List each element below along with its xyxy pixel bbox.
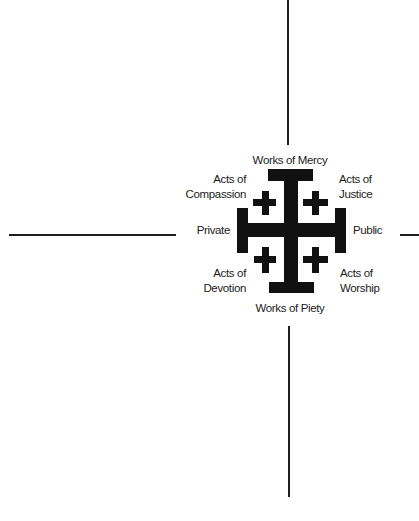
- public-text: Public: [353, 224, 382, 236]
- label-works-of-mercy: Works of Mercy: [240, 153, 340, 168]
- acts-of-worship-line1: Acts of: [340, 266, 400, 281]
- private-text: Private: [197, 224, 230, 236]
- works-of-piety-text: Works of Piety: [255, 302, 324, 314]
- jerusalem-cross-icon: [0, 0, 419, 521]
- label-acts-of-compassion: Acts of Compassion: [170, 172, 246, 202]
- acts-of-justice-line1: Acts of: [339, 172, 399, 187]
- acts-of-devotion-line1: Acts of: [180, 266, 246, 281]
- label-acts-of-justice: Acts of Justice: [339, 172, 399, 202]
- acts-of-justice-line2: Justice: [339, 187, 399, 202]
- label-acts-of-worship: Acts of Worship: [340, 266, 400, 296]
- label-public: Public: [353, 223, 403, 238]
- label-acts-of-devotion: Acts of Devotion: [180, 266, 246, 296]
- label-works-of-piety: Works of Piety: [240, 301, 340, 316]
- acts-of-worship-line2: Worship: [340, 281, 400, 296]
- works-of-mercy-text: Works of Mercy: [253, 154, 328, 166]
- label-private: Private: [180, 223, 230, 238]
- acts-of-compassion-line2: Compassion: [170, 187, 246, 202]
- diagram-canvas: Works of Mercy Works of Piety Private Pu…: [0, 0, 419, 521]
- acts-of-devotion-line2: Devotion: [180, 281, 246, 296]
- acts-of-compassion-line1: Acts of: [170, 172, 246, 187]
